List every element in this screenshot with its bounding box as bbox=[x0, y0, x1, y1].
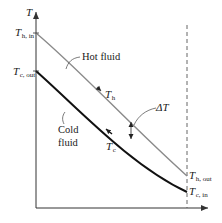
cold-fluid-label-line1: Cold bbox=[58, 125, 78, 136]
delta-t-label: ΔT bbox=[156, 102, 169, 113]
cold-inlet-label: Tc, in bbox=[189, 186, 208, 199]
cold-fluid-leader-line bbox=[63, 112, 65, 124]
cold-fluid-label-line2: fluid bbox=[58, 138, 78, 149]
hot-fluid-label: Hot fluid bbox=[82, 52, 120, 63]
y-axis-label: T bbox=[26, 7, 32, 18]
cold-flow-arrow-icon bbox=[106, 129, 112, 134]
cold-outlet-label: Tc, out bbox=[13, 66, 35, 79]
hot-inlet-label: Th, in bbox=[15, 27, 34, 40]
delta-t-leader-line bbox=[134, 108, 156, 125]
hot-curve-label: Th bbox=[105, 89, 115, 102]
hot-outlet-label: Th, out bbox=[189, 170, 212, 183]
cold-curve-label: Tc bbox=[106, 141, 116, 154]
